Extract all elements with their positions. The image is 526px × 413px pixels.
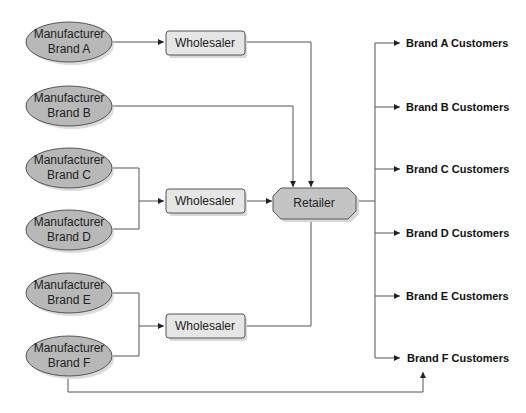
connector-wholesaler3-retailer (246, 216, 311, 326)
brand-a-customers: Brand A Customers (406, 37, 508, 49)
manufacturer-brand-a: Manufacturer Brand A (26, 22, 114, 65)
svg-text:Brand C: Brand C (47, 168, 91, 182)
svg-text:Brand A: Brand A (48, 42, 91, 56)
manufacturer-brand-e: Manufacturer Brand E (26, 273, 114, 316)
svg-text:Manufacturer: Manufacturer (34, 91, 105, 105)
svg-text:Wholesaler: Wholesaler (175, 319, 235, 333)
connector-wholesaler1-retailer (246, 42, 311, 187)
svg-text:Wholesaler: Wholesaler (175, 194, 235, 208)
svg-text:Manufacturer: Manufacturer (34, 27, 105, 41)
brand-e-customers: Brand E Customers (406, 290, 509, 302)
svg-text:Wholesaler: Wholesaler (175, 36, 235, 50)
wholesaler-2: Wholesaler (166, 189, 247, 216)
svg-text:Brand D: Brand D (47, 230, 91, 244)
manufacturer-brand-f: Manufacturer Brand F (26, 336, 114, 379)
svg-text:Retailer: Retailer (293, 196, 334, 210)
brand-f-customers: Brand F Customers (407, 352, 509, 364)
manufacturer-brand-c: Manufacturer Brand C (26, 148, 114, 191)
brand-d-customers: Brand D Customers (406, 227, 509, 239)
wholesaler-1: Wholesaler (166, 31, 247, 58)
svg-text:Brand F: Brand F (48, 356, 91, 370)
wholesaler-3: Wholesaler (166, 314, 247, 341)
connector-ef-join (112, 293, 139, 356)
svg-text:Manufacturer: Manufacturer (34, 278, 105, 292)
distribution-diagram: Manufacturer Brand A Manufacturer Brand … (0, 0, 526, 413)
manufacturer-brand-b: Manufacturer Brand B (26, 86, 114, 129)
svg-text:Manufacturer: Manufacturer (34, 215, 105, 229)
connector-cd-join (112, 168, 139, 229)
svg-text:Manufacturer: Manufacturer (34, 341, 105, 355)
svg-text:Brand E: Brand E (47, 293, 90, 307)
connector-f-direct-customers (68, 372, 423, 392)
manufacturer-brand-d: Manufacturer Brand D (26, 210, 114, 253)
svg-text:Manufacturer: Manufacturer (34, 153, 105, 167)
retailer: Retailer (273, 188, 359, 222)
svg-text:Brand B: Brand B (47, 106, 90, 120)
brand-c-customers: Brand C Customers (406, 163, 509, 175)
brand-b-customers: Brand B Customers (406, 101, 509, 113)
